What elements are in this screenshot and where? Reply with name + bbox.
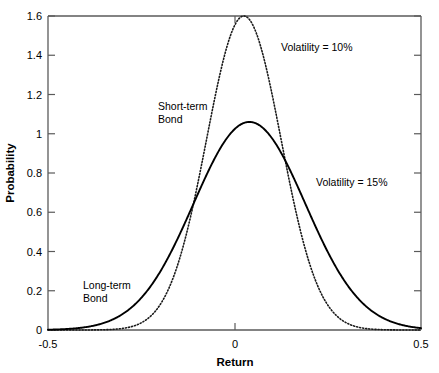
y-tick-label: 1.4 [27,49,42,61]
annotation-short-term-bond-line1: Short-term [158,100,208,112]
annotation-short-term-bond-line2: Bond [158,113,183,125]
x-tick-label: -0.5 [39,338,58,350]
y-tick-label: 0.2 [27,285,42,297]
y-axis-title: Probability [4,143,16,203]
y-axis-tick-labels: 1.6 1.4 1.2 1 0.8 0.6 0.4 0.2 0 [27,10,42,336]
x-axis-title: Return [216,356,253,368]
x-tick-label: 0.5 [413,338,428,350]
y-tick-label: 0.4 [27,246,42,258]
y-tick-label: 0.6 [27,206,42,218]
y-tick-label: 1.2 [27,89,42,101]
annotation-volatility-15: Volatility = 15% [316,176,388,188]
y-tick-label: 0 [36,324,42,336]
probability-distribution-chart: 1.6 1.4 1.2 1 0.8 0.6 0.4 0.2 0 -0.5 0 0… [0,0,439,373]
annotation-long-term-bond-line2: Bond [83,292,108,304]
annotation-volatility-10: Volatility = 10% [281,41,353,53]
y-tick-label: 0.8 [27,167,42,179]
y-tick-label: 1 [36,128,42,140]
x-tick-label: 0 [232,338,238,350]
annotation-long-term-bond-line1: Long-term [83,279,131,291]
y-tick-label: 1.6 [27,10,42,22]
chart-canvas: 1.6 1.4 1.2 1 0.8 0.6 0.4 0.2 0 -0.5 0 0… [0,0,439,373]
